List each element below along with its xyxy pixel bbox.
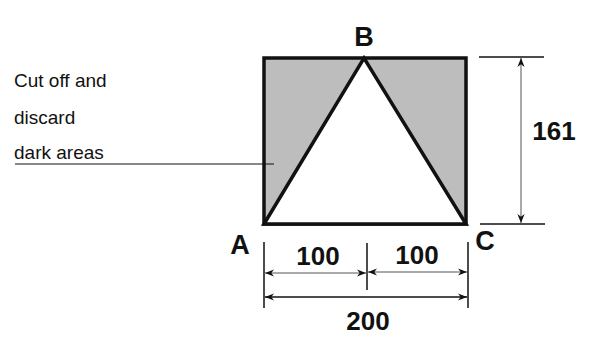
annotation-line-2: discard bbox=[14, 107, 75, 128]
vertex-label-b: B bbox=[354, 22, 374, 52]
triangle-template-diagram: Cut off and discard dark areas B A C 161… bbox=[0, 0, 593, 350]
half-right-dimension-label: 100 bbox=[395, 240, 438, 270]
annotation-line-3: dark areas bbox=[14, 142, 104, 163]
annotation-line-1: Cut off and bbox=[14, 70, 107, 91]
height-dimension-label: 161 bbox=[532, 116, 575, 146]
base-dimension-label: 200 bbox=[346, 306, 389, 336]
vertex-label-c: C bbox=[475, 226, 495, 256]
vertex-label-a: A bbox=[230, 230, 250, 260]
half-left-dimension-label: 100 bbox=[296, 241, 339, 271]
